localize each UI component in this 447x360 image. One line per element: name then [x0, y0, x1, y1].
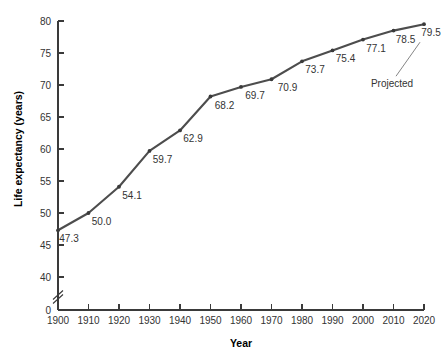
projected-annotation-label: Projected	[371, 78, 413, 89]
data-point-label: 47.3	[59, 233, 79, 244]
data-point	[117, 185, 121, 189]
data-point	[422, 22, 426, 26]
x-tick-label: 1920	[108, 315, 131, 326]
data-point-labels: 47.350.054.159.762.968.269.770.973.775.4…	[59, 27, 441, 244]
data-point-label: 59.7	[153, 154, 173, 165]
x-tick-label: 1960	[230, 315, 253, 326]
y-tick-label: 0	[45, 305, 51, 316]
y-tick-label: 50	[40, 208, 52, 219]
data-point-label: 75.4	[336, 53, 356, 64]
x-tick-label: 2000	[352, 315, 375, 326]
data-point-label: 62.9	[183, 133, 203, 144]
chart-canvas: 0404550556065707580 19001910192019301940…	[0, 0, 447, 360]
x-tick-label: 1970	[260, 315, 283, 326]
data-point-label: 54.1	[122, 190, 142, 201]
data-point-label: 77.1	[366, 43, 386, 54]
y-tick-label: 70	[40, 80, 52, 91]
x-tick-label: 1990	[321, 315, 344, 326]
y-tick-label: 75	[40, 48, 52, 59]
axes-group	[53, 21, 424, 310]
data-point-label: 68.2	[215, 100, 235, 111]
x-axis-title: Year	[230, 337, 252, 349]
x-tick-label: 2010	[382, 315, 405, 326]
data-point	[239, 85, 243, 89]
data-point	[300, 59, 304, 63]
data-point	[87, 211, 91, 215]
x-tick-label: 1930	[138, 315, 161, 326]
data-point-label: 79.5	[421, 27, 441, 38]
y-tick-label: 45	[40, 240, 52, 251]
y-axis-ticks: 0404550556065707580	[40, 16, 64, 316]
series-group: 47.350.054.159.762.968.269.770.973.775.4…	[56, 22, 441, 244]
data-point-label: 69.7	[245, 90, 265, 101]
x-tick-label: 1900	[47, 315, 70, 326]
data-point-label: 73.7	[305, 64, 325, 75]
data-point	[178, 129, 182, 133]
data-point-markers	[56, 22, 426, 232]
data-point-label: 70.9	[278, 82, 298, 93]
data-point	[209, 95, 213, 99]
data-point	[148, 149, 152, 153]
y-tick-label: 65	[40, 112, 52, 123]
data-point	[270, 77, 274, 81]
y-tick-label: 55	[40, 176, 52, 187]
y-tick-label: 60	[40, 144, 52, 155]
annotation-leader-line	[396, 42, 420, 76]
x-tick-label: 1950	[199, 315, 222, 326]
x-axis-ticks: 1900191019201930194019501960197019801990…	[47, 304, 436, 326]
data-point-label: 50.0	[92, 216, 112, 227]
life-expectancy-line	[58, 24, 424, 230]
x-tick-label: 1940	[169, 315, 192, 326]
data-point-label: 78.5	[396, 34, 416, 45]
x-tick-label: 1910	[77, 315, 100, 326]
y-tick-label: 40	[40, 272, 52, 283]
data-point	[361, 38, 365, 42]
y-axis-title: Life expectancy (years)	[12, 91, 24, 207]
data-point	[331, 49, 335, 53]
y-tick-label: 80	[40, 16, 52, 27]
x-tick-label: 1980	[291, 315, 314, 326]
x-tick-label: 2020	[413, 315, 436, 326]
data-point	[392, 29, 396, 33]
data-point	[56, 228, 60, 232]
life-expectancy-line-chart: 0404550556065707580 19001910192019301940…	[0, 0, 447, 360]
